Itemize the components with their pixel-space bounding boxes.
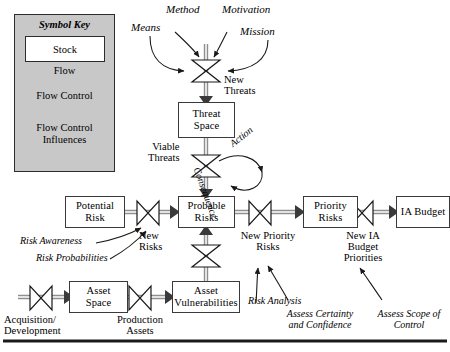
legend-influences-line2: Influences [43,134,87,145]
prod-line1: Production [117,314,163,325]
new-priority-risks-line2: Risks [256,241,279,252]
assess-certainty-line1: Assess Certainty [287,308,353,319]
stock-line1: Priority [314,200,347,211]
flow-label-new-risks: New Risks [139,230,162,252]
diagram-canvas: Symbol Key Stock Flow Flow Control Flow … [0,0,450,352]
prod-line2: Assets [126,325,153,336]
stock-line2: Space [86,297,112,308]
legend-influences-label: Flow Control Influences [15,122,114,146]
stock-line2: Risks [319,212,343,223]
influence-label-risk-analysis: Risk Analysis [248,296,301,307]
stock-asset-vulnerabilities[interactable]: Asset Vulnerabilities [172,281,240,313]
stock-line2: Space [194,120,220,131]
flow-label-viable-threats: Viable New Threats [148,141,180,163]
flow-label-new-ia-budget-priorities: New IA Budget Priorities [344,230,383,263]
flow-label-new-threats: New Threats [224,74,256,96]
flow-label-acquisition-development: Acquisition/ Development [4,314,61,336]
stock-potential-risk-label: Potential Risk [76,200,114,224]
influence-label-method: Method [166,4,200,16]
acq-line1: Acquisition/ [4,314,56,325]
flow-label-new-priority-risks: New Priority Risks [241,230,296,252]
new-priority-risks-line1: New Priority [241,230,296,241]
new-risks-line1: New [139,230,159,241]
stock-line1: Potential [76,200,114,211]
stock-asset-vulnerabilities-label: Asset Vulnerabilities [174,285,237,309]
legend-flow-control-label: Flow Control [15,90,114,101]
new-ia-line3: Priorities [344,252,383,263]
stock-ia-budget[interactable]: IA Budget [396,196,450,228]
consequence-arrow [231,172,262,190]
stock-threat-space-label: Threat Space [193,108,221,132]
influence-label-risk-probabilities: Risk Probabilities [36,253,108,264]
new-ia-line2: Budget [348,241,378,252]
action-arrow [219,156,262,172]
stock-asset-space-label: Asset Space [86,285,112,309]
influence-arrows [96,32,382,303]
new-threats-line1: New [224,74,244,85]
assess-certainty-line2: and Confidence [288,319,351,330]
stock-line1: Asset [87,285,111,296]
action-consequence-loop [219,156,262,190]
stock-priority-risks[interactable]: Priority Risks [303,196,358,228]
stock-line1: Threat [193,108,221,119]
legend-stock-label: Stock [53,44,77,55]
legend-influences-line1: Flow Control [36,122,92,133]
new-risks-line2: Risks [139,241,162,252]
symbol-key-legend: Symbol Key Stock Flow Flow Control Flow … [14,14,115,172]
influence-label-assess-scope: Assess Scope of Control [378,309,441,330]
influence-label-means: Means [131,22,160,34]
stock-threat-space[interactable]: Threat Space [178,102,235,138]
stock-ia-budget-label: IA Budget [401,206,445,218]
stock-line2: Vulnerabilities [174,297,237,308]
acq-line2: Development [4,325,61,336]
stock-priority-risks-label: Priority Risks [314,200,347,224]
influence-label-risk-awareness: Risk Awareness [20,236,82,247]
legend-flow-label: Flow [15,65,114,76]
stock-line2: Risk [85,212,105,223]
influence-label-assess-certainty: Assess Certainty and Confidence [287,309,353,330]
flow-label-production-assets: Production Assets [117,314,163,336]
assess-scope-line2: Control [394,319,425,330]
influence-label-mission: Mission [240,26,275,38]
stock-asset-space[interactable]: Asset Space [69,281,128,313]
assess-scope-line1: Assess Scope of [378,308,441,319]
new-threats-line2: Threats [224,85,256,96]
legend-stock-box: Stock [25,36,105,62]
viable-threats-line2: Threats [148,152,180,163]
stock-potential-risk[interactable]: Potential Risk [65,196,125,228]
new-ia-line1: New IA [346,230,380,241]
legend-title: Symbol Key [15,19,114,30]
influence-label-motivation: Motivation [222,4,270,16]
viable-threats-line1: Viable [152,141,179,152]
stock-line1: Asset [194,285,218,296]
